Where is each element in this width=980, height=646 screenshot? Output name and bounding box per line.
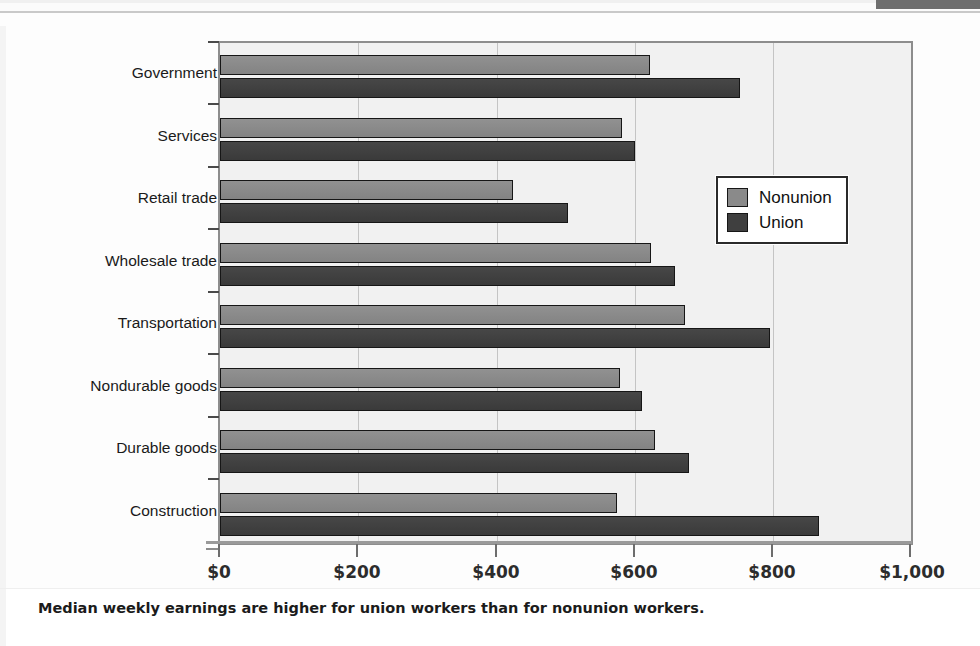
bar-wholesale-trade-nonunion[interactable] <box>220 243 651 263</box>
x-axis-tick-label-800: $800 <box>748 562 795 582</box>
bar-construction-union[interactable] <box>220 516 819 536</box>
clipped-header-text-remnant <box>0 0 876 3</box>
x-axis-tick-label-0: $0 <box>207 562 231 582</box>
legend-entry-union[interactable]: Union <box>727 210 832 235</box>
legend-swatch-union <box>727 213 748 232</box>
y-axis-label-wholesale-trade: Wholesale trade <box>105 253 217 269</box>
bar-retail-trade-nonunion[interactable] <box>220 180 513 200</box>
figure-panel: Government Services Retail trade Wholesa… <box>0 13 980 588</box>
legend-label-union: Union <box>759 214 803 231</box>
bar-government-union[interactable] <box>220 78 740 98</box>
bar-retail-trade-union[interactable] <box>220 203 568 223</box>
bar-services-union[interactable] <box>220 141 635 161</box>
x-axis-tick-0 <box>218 544 220 557</box>
x-axis-tick-200 <box>356 544 358 557</box>
gridline-800 <box>773 43 774 543</box>
legend-label-nonunion: Nonunion <box>759 189 832 206</box>
y-axis-label-services: Services <box>158 128 217 144</box>
y-axis-tick <box>208 478 219 480</box>
caption-divider <box>0 588 980 589</box>
x-axis-tick-800 <box>771 544 773 557</box>
x-axis-tick-label-600: $600 <box>610 562 657 582</box>
x-axis-tick-600 <box>633 544 635 557</box>
legend-entry-nonunion[interactable]: Nonunion <box>727 185 832 210</box>
y-axis-label-retail-trade: Retail trade <box>138 190 217 206</box>
chart-legend[interactable]: Nonunion Union <box>716 176 848 244</box>
y-axis-label-durable-goods: Durable goods <box>116 440 217 456</box>
x-axis-tick-label-200: $200 <box>333 562 380 582</box>
bar-durable-goods-nonunion[interactable] <box>220 430 655 450</box>
bar-transportation-nonunion[interactable] <box>220 305 685 325</box>
y-axis-label-transportation: Transportation <box>118 315 217 331</box>
y-axis-label-government: Government <box>132 65 217 81</box>
x-axis-tick-label-1000: $1,000 <box>879 562 945 582</box>
y-axis-tick <box>208 41 219 43</box>
y-axis-tick <box>208 416 219 418</box>
y-axis-tick <box>208 166 219 168</box>
bar-nondurable-goods-nonunion[interactable] <box>220 368 620 388</box>
page-left-margin <box>0 26 6 646</box>
y-axis-tick <box>208 291 219 293</box>
bar-durable-goods-union[interactable] <box>220 453 689 473</box>
bar-services-nonunion[interactable] <box>220 118 622 138</box>
clipped-header-dark-tab <box>876 0 980 9</box>
bar-nondurable-goods-union[interactable] <box>220 391 642 411</box>
y-axis-tick <box>208 228 219 230</box>
bar-government-nonunion[interactable] <box>220 55 650 75</box>
bar-wholesale-trade-union[interactable] <box>220 266 675 286</box>
bar-transportation-union[interactable] <box>220 328 770 348</box>
x-axis-tick-400 <box>495 544 497 557</box>
x-axis-tick-label-400: $400 <box>472 562 519 582</box>
figure-caption: Median weekly earnings are higher for un… <box>38 600 704 616</box>
y-axis-tick <box>208 103 219 105</box>
y-axis-tick <box>208 353 219 355</box>
y-axis-label-construction: Construction <box>130 503 217 519</box>
x-axis-tick-1000 <box>909 544 911 557</box>
bar-construction-nonunion[interactable] <box>220 493 617 513</box>
x-axis-line <box>206 541 912 544</box>
legend-swatch-nonunion <box>727 188 748 207</box>
y-axis-label-nondurable-goods: Nondurable goods <box>90 378 217 394</box>
